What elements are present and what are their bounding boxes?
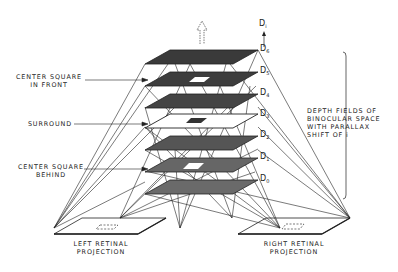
- label-arrows: [74, 78, 148, 171]
- label-left-retina: LEFT RETINAL PROJECTION: [66, 240, 136, 256]
- label-line: BINOCULAR SPACE: [307, 115, 381, 123]
- depth-planes: [145, 50, 258, 194]
- plane-d0: [145, 180, 258, 194]
- label-surround: SURROUND: [27, 120, 73, 128]
- right-retina: [238, 218, 350, 234]
- plane-label-sub: 3: [266, 113, 269, 119]
- label-line: CENTER SQUARE: [16, 163, 86, 171]
- left-retina: [54, 218, 166, 234]
- plane-label-sub: 1: [266, 156, 269, 162]
- plane-label-sub: 6: [266, 48, 269, 54]
- label-line: CENTER SQUARE: [14, 73, 84, 81]
- plane-label-sub: 2: [266, 134, 269, 140]
- plane-label-d3: D3: [260, 110, 269, 120]
- plane-d4: [145, 94, 258, 108]
- left-retina-dashed-square: [96, 225, 118, 229]
- plane-label-sub: 5: [266, 70, 269, 76]
- stereopsis-diagram: CENTER SQUARE IN FRONT SURROUND CENTER S…: [0, 0, 398, 272]
- retinal-projections: [54, 218, 350, 234]
- label-line: LEFT RETINAL: [66, 240, 136, 248]
- plane-d2: [145, 136, 258, 150]
- label-line: RIGHT RETINAL: [256, 240, 332, 248]
- depth-axis-sub: i: [265, 23, 266, 29]
- label-line: PROJECTION: [256, 248, 332, 256]
- label-line: IN FRONT: [14, 81, 84, 89]
- plane-label-d1: D1: [260, 153, 269, 163]
- label-line: BEHIND: [16, 171, 86, 179]
- plane-label-d5: D5: [260, 67, 269, 77]
- dashed-up-arrow-icon: [197, 21, 207, 44]
- plane-d6: [145, 50, 258, 64]
- label-depth-fields: DEPTH FIELDS OF BINOCULAR SPACE WITH PAR…: [307, 107, 381, 139]
- plane-label-d4: D4: [260, 89, 269, 99]
- depth-axis-label: Di: [259, 20, 267, 30]
- right-retina-dashed-square: [282, 224, 304, 229]
- plane-label-sub: 4: [266, 92, 269, 98]
- label-line: PROJECTION: [66, 248, 136, 256]
- label-line: SHIFT OF i: [307, 131, 381, 139]
- label-center-front: CENTER SQUARE IN FRONT: [14, 73, 84, 89]
- plane-label-d2: D2: [260, 131, 269, 141]
- label-right-retina: RIGHT RETINAL PROJECTION: [256, 240, 332, 256]
- label-line: DEPTH FIELDS OF: [307, 107, 381, 115]
- label-center-behind: CENTER SQUARE BEHIND: [16, 163, 86, 179]
- label-line: WITH PARALLAX: [307, 123, 381, 131]
- plane-label-d0: D0: [260, 175, 269, 185]
- plane-label-sub: 0: [266, 178, 269, 184]
- plane-label-d6: D6: [260, 45, 269, 55]
